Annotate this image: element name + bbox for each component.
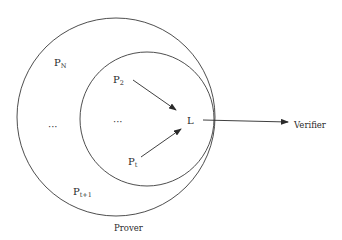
inner-set-circle bbox=[80, 52, 214, 186]
prover-verifier-diagram: PN P2 Pt Pt+1 L ··· ··· Verifier Prover bbox=[0, 0, 342, 240]
ellipsis-outer: ··· bbox=[48, 121, 58, 132]
node-pt-plus-1: Pt+1 bbox=[73, 186, 92, 199]
node-l: L bbox=[187, 115, 194, 126]
arrow-p2-to-l bbox=[133, 80, 176, 110]
arrow-pt-to-l bbox=[141, 129, 181, 157]
prover-label: Prover bbox=[114, 223, 144, 233]
verifier-label: Verifier bbox=[293, 120, 327, 130]
ellipsis-inner: ··· bbox=[113, 116, 123, 127]
node-pt: Pt bbox=[128, 156, 138, 169]
node-p2: P2 bbox=[113, 74, 124, 87]
arrow-l-to-verifier bbox=[203, 120, 288, 122]
node-pn: PN bbox=[54, 57, 67, 70]
